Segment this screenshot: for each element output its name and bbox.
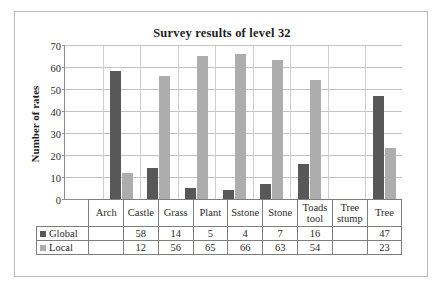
bar-local-sstone xyxy=(235,54,246,199)
value-cell: 65 xyxy=(193,241,227,255)
gridline xyxy=(65,45,402,46)
column-separator xyxy=(103,46,104,199)
value-cell xyxy=(332,227,367,241)
value-cell: 63 xyxy=(263,241,298,255)
value-cell: 54 xyxy=(298,241,333,255)
bar-local-grass xyxy=(159,76,170,199)
value-cell xyxy=(89,241,123,255)
y-axis-tick-label: 10 xyxy=(31,173,61,184)
bar-local-castle xyxy=(122,173,133,199)
value-cell: 66 xyxy=(228,241,263,255)
y-axis-tick-mark xyxy=(62,45,65,46)
bar-local-toads-tool xyxy=(310,80,321,199)
column-separator xyxy=(328,46,329,199)
value-cell: 16 xyxy=(298,227,333,241)
value-cell: 4 xyxy=(228,227,263,241)
bar-global-plant xyxy=(185,188,196,199)
bar-local-stone xyxy=(272,60,283,199)
legend-label-local: Local xyxy=(49,242,73,253)
category-cell: Castle xyxy=(123,200,158,227)
y-axis-title: Number of rates xyxy=(29,59,41,189)
chart-title: Survey results of level 32 xyxy=(15,26,429,41)
table-row: Local 12566566635423 xyxy=(37,241,402,255)
chart-frame: Survey results of level 32 Number of rat… xyxy=(14,11,428,277)
data-table: ArchCastleGrassPlantSstoneStoneToads too… xyxy=(36,199,402,255)
y-axis-tick-mark xyxy=(62,111,65,112)
y-axis-tick-mark xyxy=(62,133,65,134)
value-cell: 23 xyxy=(367,241,401,255)
value-cell: 5 xyxy=(193,227,227,241)
column-separator xyxy=(215,46,216,199)
column-separator xyxy=(140,46,141,199)
y-axis-tick-label: 40 xyxy=(31,107,61,118)
column-separator xyxy=(365,46,366,199)
category-cell: Tree xyxy=(367,200,401,227)
table-row-categories: ArchCastleGrassPlantSstoneStoneToads too… xyxy=(37,200,402,227)
value-cell: 47 xyxy=(367,227,401,241)
y-axis-tick-mark xyxy=(62,155,65,156)
legend-cell-global: Global xyxy=(37,227,89,241)
bar-global-castle xyxy=(110,71,121,199)
category-cell: Arch xyxy=(89,200,123,227)
y-axis-tick-mark xyxy=(62,67,65,68)
value-cell: 7 xyxy=(263,227,298,241)
category-cell: Sstone xyxy=(228,200,263,227)
category-cell: Grass xyxy=(158,200,193,227)
y-axis-tick-label: 20 xyxy=(31,151,61,162)
bar-global-sstone xyxy=(223,190,234,199)
category-cell: Stone xyxy=(263,200,298,227)
bar-local-tree xyxy=(385,148,396,199)
y-axis-tick-mark xyxy=(62,177,65,178)
legend-label-global: Global xyxy=(49,228,78,239)
value-cell: 14 xyxy=(158,227,193,241)
y-axis-tick-label: 50 xyxy=(31,85,61,96)
y-axis-tick-label: 30 xyxy=(31,129,61,140)
plot-area: 706050403020100 xyxy=(64,45,402,199)
value-cell: 56 xyxy=(158,241,193,255)
bar-global-tree xyxy=(373,96,384,199)
y-axis-tick-mark xyxy=(62,89,65,90)
value-cell xyxy=(332,241,367,255)
value-cell: 58 xyxy=(123,227,158,241)
category-cell: Tree stump xyxy=(332,200,367,227)
category-cell: Plant xyxy=(193,200,227,227)
column-separator xyxy=(253,46,254,199)
table-row: Global 58145471647 xyxy=(37,227,402,241)
value-cell: 12 xyxy=(123,241,158,255)
bar-global-stone xyxy=(260,184,271,199)
legend-swatch-local-icon xyxy=(40,245,46,251)
column-separator xyxy=(178,46,179,199)
y-axis-tick-label: 70 xyxy=(31,41,61,52)
gridline xyxy=(65,67,402,68)
legend-swatch-global-icon xyxy=(40,231,46,237)
column-separator xyxy=(290,46,291,199)
value-cell xyxy=(89,227,123,241)
table-corner-blank xyxy=(37,200,89,227)
bar-local-plant xyxy=(197,56,208,199)
bar-global-grass xyxy=(147,168,158,199)
bar-global-toads-tool xyxy=(298,164,309,199)
category-cell: Toads tool xyxy=(298,200,333,227)
legend-cell-local: Local xyxy=(37,241,89,255)
y-axis-tick-label: 60 xyxy=(31,63,61,74)
